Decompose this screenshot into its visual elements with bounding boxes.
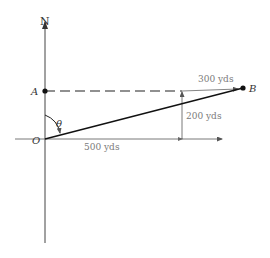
point-b-label: B [248,83,256,94]
measure-200-label: 200 yds [186,111,222,121]
ab-line [182,89,238,91]
point-a [42,88,47,93]
point-b [240,85,245,90]
theta-label: θ [56,118,62,129]
point-a-label: A [30,86,38,97]
navigation-diagram: N A B O θ 500 yds 200 yds 300 yds [0,0,270,258]
measure-300-label: 300 yds [198,74,234,84]
north-label: N [40,15,50,28]
measure-500-label: 500 yds [84,142,120,152]
point-o-label: O [32,135,40,146]
